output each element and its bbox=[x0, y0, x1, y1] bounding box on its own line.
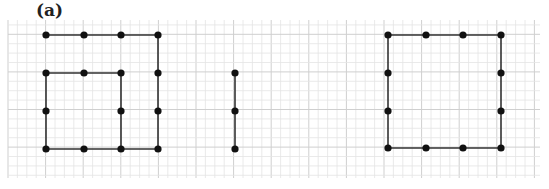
vertex-dot bbox=[42, 145, 49, 152]
vertex-dot bbox=[384, 31, 391, 38]
vertex-dot bbox=[117, 69, 124, 76]
vertex-dot bbox=[384, 107, 391, 114]
vertex-dot bbox=[422, 31, 429, 38]
vertex-dot bbox=[154, 107, 161, 114]
vertex-dot bbox=[80, 31, 87, 38]
vertex-dot bbox=[154, 69, 161, 76]
vertex-dot bbox=[154, 145, 161, 152]
vertex-dot bbox=[422, 144, 429, 151]
vertex-dot bbox=[497, 107, 504, 114]
vertex-dot bbox=[117, 145, 124, 152]
vertex-dot bbox=[154, 31, 161, 38]
vertex-dot bbox=[459, 31, 466, 38]
vertex-dot bbox=[80, 145, 87, 152]
vertex-dot bbox=[459, 144, 466, 151]
vertex-dot bbox=[117, 31, 124, 38]
vertex-dot bbox=[384, 144, 391, 151]
vertex-dot bbox=[80, 69, 87, 76]
vertex-dot bbox=[42, 31, 49, 38]
vertex-dot bbox=[497, 144, 504, 151]
vertex-dot bbox=[497, 69, 504, 76]
vertex-dot bbox=[231, 107, 238, 114]
vertex-dot bbox=[117, 107, 124, 114]
vertex-dot bbox=[42, 69, 49, 76]
vertex-dot bbox=[497, 31, 504, 38]
graph-paper-diagram bbox=[0, 0, 549, 189]
vertex-dot bbox=[42, 107, 49, 114]
vertex-dot bbox=[231, 145, 238, 152]
vertex-dot bbox=[231, 69, 238, 76]
square-shape-edges bbox=[388, 35, 501, 148]
vertex-dot bbox=[384, 69, 391, 76]
